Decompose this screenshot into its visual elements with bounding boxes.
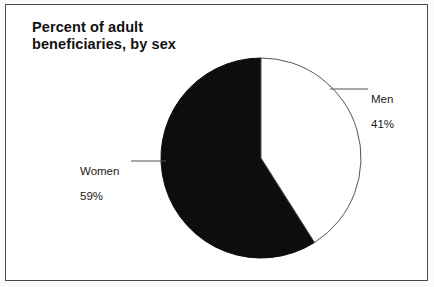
pie-label-women: Women 59%: [80, 154, 119, 214]
pie-label-women-name: Women: [80, 166, 119, 178]
pie-label-men-name: Men: [371, 94, 394, 106]
pie-label-men-value: 41%: [371, 119, 394, 131]
pie-label-women-value: 59%: [80, 191, 119, 203]
pie-chart-graphic: [0, 0, 434, 287]
pie-label-men: Men 41%: [371, 82, 394, 142]
pie-chart-figure: Percent of adult beneficiaries, by sex M…: [0, 0, 434, 287]
